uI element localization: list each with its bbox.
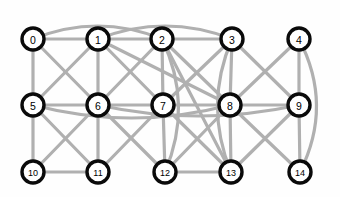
graph-node-8[interactable]: 8 xyxy=(219,94,241,116)
graph-node-5[interactable]: 5 xyxy=(22,94,44,116)
graph-node-0[interactable]: 0 xyxy=(22,28,44,50)
node-label: 5 xyxy=(30,100,36,112)
node-label: 7 xyxy=(160,100,166,112)
node-label: 9 xyxy=(296,100,302,112)
graph-node-6[interactable]: 6 xyxy=(87,94,109,116)
graph-node-13[interactable]: 13 xyxy=(220,161,242,183)
graph-node-3[interactable]: 3 xyxy=(221,28,243,50)
graph-node-2[interactable]: 2 xyxy=(151,28,173,50)
node-label: 1 xyxy=(95,34,101,46)
graph-node-1[interactable]: 1 xyxy=(87,28,109,50)
node-label: 8 xyxy=(227,100,233,112)
node-label: 14 xyxy=(295,168,305,178)
edge-layer xyxy=(33,26,317,172)
graph-node-10[interactable]: 10 xyxy=(22,161,44,183)
graph-svg: 01234567891011121314 xyxy=(0,0,340,197)
node-label: 13 xyxy=(226,168,236,178)
graph-canvas: 01234567891011121314 xyxy=(0,0,340,197)
node-label: 11 xyxy=(93,168,102,178)
node-label: 4 xyxy=(296,34,302,46)
node-label: 0 xyxy=(30,34,36,46)
graph-node-14[interactable]: 14 xyxy=(289,161,311,183)
node-label: 10 xyxy=(28,168,38,178)
graph-node-7[interactable]: 7 xyxy=(152,94,174,116)
graph-node-4[interactable]: 4 xyxy=(288,28,310,50)
node-label: 2 xyxy=(159,34,165,46)
graph-node-9[interactable]: 9 xyxy=(288,94,310,116)
graph-node-11[interactable]: 11 xyxy=(87,161,109,183)
graph-node-12[interactable]: 12 xyxy=(154,161,176,183)
node-label: 6 xyxy=(95,100,101,112)
node-label: 3 xyxy=(229,34,235,46)
node-label: 12 xyxy=(160,168,170,178)
